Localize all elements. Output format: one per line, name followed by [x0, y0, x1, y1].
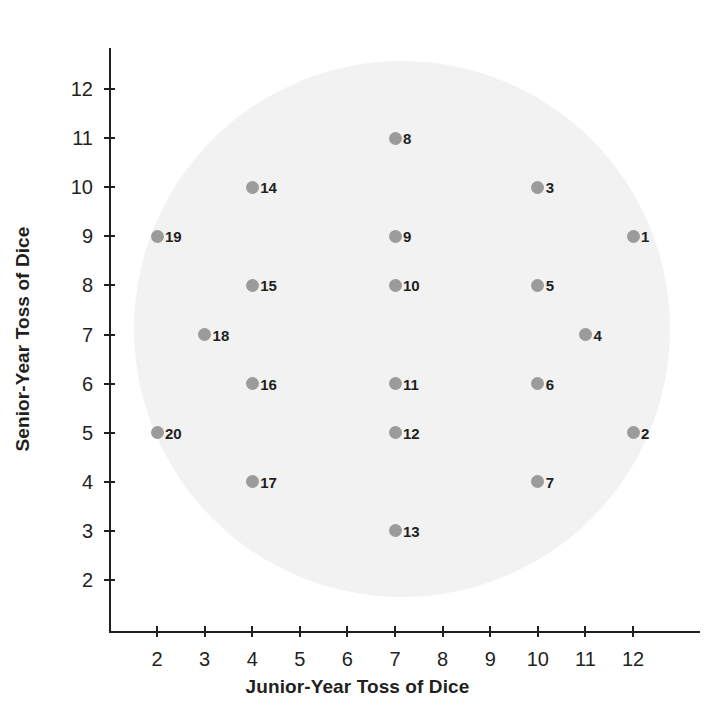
y-tick-label-9: 9 [47, 226, 93, 246]
y-tick-3 [104, 530, 115, 532]
y-axis-spine [109, 48, 111, 633]
y-axis-title: Senior-Year Toss of Dice [12, 169, 34, 509]
x-tick-7 [394, 626, 396, 637]
y-tick-label-11: 11 [47, 128, 93, 148]
data-point-label-20: 20 [165, 426, 182, 441]
y-tick-label-6: 6 [47, 374, 93, 394]
data-point-19[interactable] [151, 230, 164, 243]
data-point-label-9: 9 [403, 229, 411, 244]
x-tick-4 [251, 626, 253, 637]
x-tick-12 [632, 626, 634, 637]
data-point-12[interactable] [389, 426, 402, 439]
x-tick-11 [584, 626, 586, 637]
data-point-14[interactable] [246, 181, 259, 194]
data-point-13[interactable] [389, 524, 402, 537]
data-point-label-7: 7 [546, 475, 554, 490]
data-point-16[interactable] [246, 377, 259, 390]
data-point-label-17: 17 [260, 475, 277, 490]
data-point-10[interactable] [389, 279, 402, 292]
data-point-18[interactable] [198, 328, 211, 341]
data-point-label-13: 13 [403, 524, 420, 539]
x-tick-label-8: 8 [418, 649, 468, 669]
x-axis-spine [109, 631, 700, 633]
x-tick-label-4: 4 [227, 649, 277, 669]
data-point-7[interactable] [531, 475, 544, 488]
y-tick-label-12: 12 [47, 79, 93, 99]
data-point-2[interactable] [627, 426, 640, 439]
y-tick-5 [104, 432, 115, 434]
data-point-6[interactable] [531, 377, 544, 390]
x-tick-3 [204, 626, 206, 637]
data-point-label-11: 11 [403, 377, 419, 392]
x-tick-label-5: 5 [275, 649, 325, 669]
y-tick-8 [104, 284, 115, 286]
data-point-label-15: 15 [260, 278, 277, 293]
data-point-5[interactable] [531, 279, 544, 292]
data-point-label-16: 16 [260, 377, 277, 392]
y-tick-label-2: 2 [47, 570, 93, 590]
data-point-4[interactable] [579, 328, 592, 341]
x-tick-label-6: 6 [322, 649, 372, 669]
x-tick-label-10: 10 [513, 649, 563, 669]
data-point-label-14: 14 [260, 180, 277, 195]
data-point-3[interactable] [531, 181, 544, 194]
data-point-label-8: 8 [403, 131, 411, 146]
y-tick-label-7: 7 [47, 325, 93, 345]
y-tick-12 [104, 88, 115, 90]
x-tick-9 [489, 626, 491, 637]
y-tick-label-5: 5 [47, 423, 93, 443]
data-point-label-2: 2 [641, 426, 649, 441]
x-tick-6 [346, 626, 348, 637]
x-tick-label-3: 3 [180, 649, 230, 669]
data-point-11[interactable] [389, 377, 402, 390]
x-tick-10 [537, 626, 539, 637]
y-tick-9 [104, 235, 115, 237]
x-axis-title: Junior-Year Toss of Dice [0, 676, 715, 698]
x-tick-label-7: 7 [370, 649, 420, 669]
x-tick-8 [442, 626, 444, 637]
y-tick-10 [104, 186, 115, 188]
data-point-label-5: 5 [546, 278, 554, 293]
x-tick-label-12: 12 [608, 649, 658, 669]
data-point-label-10: 10 [403, 278, 420, 293]
scatter-plot-figure: 23456789101112 23456789101112 1234567891… [0, 0, 715, 723]
x-tick-2 [156, 626, 158, 637]
data-point-1[interactable] [627, 230, 640, 243]
data-point-label-3: 3 [546, 180, 554, 195]
x-tick-label-2: 2 [132, 649, 182, 669]
y-tick-6 [104, 383, 115, 385]
data-point-8[interactable] [389, 132, 402, 145]
y-tick-label-4: 4 [47, 472, 93, 492]
x-tick-label-11: 11 [560, 649, 610, 669]
data-point-label-6: 6 [546, 377, 554, 392]
y-tick-label-10: 10 [47, 177, 93, 197]
data-point-label-12: 12 [403, 426, 420, 441]
y-tick-label-8: 8 [47, 275, 93, 295]
data-point-15[interactable] [246, 279, 259, 292]
y-tick-11 [104, 137, 115, 139]
data-point-20[interactable] [151, 426, 164, 439]
data-point-label-19: 19 [165, 229, 182, 244]
data-point-label-1: 1 [641, 229, 649, 244]
data-point-17[interactable] [246, 475, 259, 488]
x-tick-5 [299, 626, 301, 637]
y-tick-2 [104, 579, 115, 581]
y-tick-label-3: 3 [47, 521, 93, 541]
y-tick-4 [104, 481, 115, 483]
data-point-label-18: 18 [213, 328, 230, 343]
data-point-9[interactable] [389, 230, 402, 243]
data-point-label-4: 4 [593, 328, 601, 343]
y-tick-7 [104, 334, 115, 336]
x-tick-label-9: 9 [465, 649, 515, 669]
